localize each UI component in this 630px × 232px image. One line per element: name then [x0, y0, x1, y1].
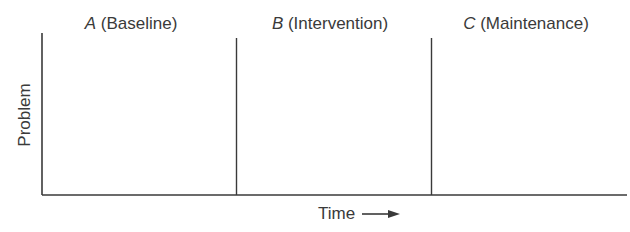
- phase-letter: C: [463, 14, 475, 33]
- phase-letter: A: [85, 14, 96, 33]
- phase-name: (Baseline): [101, 14, 178, 33]
- phase-label-a: A (Baseline): [85, 14, 178, 34]
- phase-label-c: C (Maintenance): [463, 14, 589, 34]
- y-axis-label: Problem: [15, 83, 35, 146]
- diagram-axes: [0, 0, 630, 232]
- phase-label-b: B (Intervention): [272, 14, 388, 34]
- phase-name: (Maintenance): [480, 14, 589, 33]
- x-axis-label-group: Time: [318, 204, 400, 224]
- right-arrow-icon: [362, 208, 400, 220]
- phase-letter: B: [272, 14, 283, 33]
- x-axis-label: Time: [318, 204, 355, 224]
- phase-name: (Intervention): [288, 14, 388, 33]
